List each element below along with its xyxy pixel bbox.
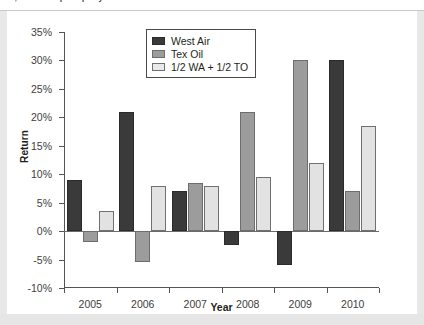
x-axis-title: Year	[64, 301, 379, 313]
y-axis-title: Return	[19, 117, 30, 177]
bar	[240, 112, 255, 231]
caption-strip: …, Portfolio split equally between West …	[0, 0, 424, 9]
bar	[256, 177, 271, 231]
legend-item: West Air	[152, 34, 248, 47]
bar	[67, 180, 82, 231]
x-axis-tick	[379, 288, 380, 293]
legend-item: Tex Oil	[152, 47, 248, 60]
y-axis-tick: 0%	[59, 231, 64, 232]
bar	[309, 163, 324, 231]
page-gutter-right	[417, 11, 424, 314]
y-axis-tick: 35%	[59, 32, 64, 33]
y-axis-tick-label: 30%	[31, 54, 52, 66]
bar	[151, 186, 166, 232]
y-axis-tick-label: 15%	[31, 140, 52, 152]
bar	[172, 191, 187, 231]
bar	[135, 231, 150, 262]
y-axis-tick-label: 25%	[31, 83, 52, 95]
x-axis-tick	[274, 288, 275, 293]
y-axis-tick: 30%	[59, 60, 64, 61]
zero-baseline	[64, 231, 379, 232]
bar-chart-figure: Return 35%30%25%20%15%10%5%0%-5%-10% 200…	[7, 11, 417, 314]
x-axis-tick	[64, 288, 65, 293]
caption-text: …, Portfolio split equally between West …	[6, 0, 230, 2]
y-axis-tick: 5%	[59, 203, 64, 204]
chart-legend: West AirTex Oil1/2 WA + 1/2 TO	[146, 29, 256, 78]
y-axis-tick-label: -5%	[33, 254, 52, 266]
legend-swatch-icon	[152, 37, 165, 45]
bar	[99, 211, 114, 231]
y-axis-tick-label: 0%	[37, 225, 52, 237]
bar	[188, 183, 203, 231]
y-axis-tick-label: -10%	[27, 282, 52, 294]
bar	[345, 191, 360, 231]
x-axis-tick	[117, 288, 118, 293]
bar	[277, 231, 292, 265]
bar	[204, 186, 219, 232]
page-gutter-left	[0, 11, 7, 314]
bar	[329, 60, 344, 231]
y-axis-tick: 20%	[59, 117, 64, 118]
x-axis-tick	[327, 288, 328, 293]
legend-item-label: 1/2 WA + 1/2 TO	[171, 61, 248, 73]
legend-item-label: West Air	[171, 35, 210, 47]
legend-swatch-icon	[152, 50, 165, 58]
legend-item-label: Tex Oil	[171, 48, 203, 60]
x-axis-tick	[169, 288, 170, 293]
page-footer-band	[0, 314, 424, 325]
legend-item: 1/2 WA + 1/2 TO	[152, 60, 248, 73]
bar	[361, 126, 376, 231]
y-axis-tick-label: 35%	[31, 26, 52, 38]
bar	[293, 60, 308, 231]
y-axis-tick: 25%	[59, 89, 64, 90]
y-axis-tick: -5%	[59, 260, 64, 261]
bar	[224, 231, 239, 245]
legend-swatch-icon	[152, 63, 165, 71]
y-axis-line	[64, 32, 65, 288]
y-axis-tick-label: 10%	[31, 168, 52, 180]
y-axis-tick: 15%	[59, 146, 64, 147]
bar	[119, 112, 134, 231]
x-axis-tick	[222, 288, 223, 293]
y-axis-tick-label: 5%	[37, 197, 52, 209]
y-axis-tick: 10%	[59, 174, 64, 175]
y-axis-tick-label: 20%	[31, 111, 52, 123]
bar	[83, 231, 98, 242]
figure-page: …, Portfolio split equally between West …	[0, 0, 424, 325]
